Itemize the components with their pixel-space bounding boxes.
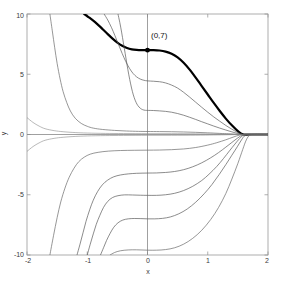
xtick-label: 2 — [265, 257, 269, 264]
point-annotation-label: (0,7) — [151, 31, 167, 40]
xtick-label: -1 — [85, 257, 91, 264]
ytick-label: 5 — [10, 71, 24, 78]
annotation-markers — [145, 48, 150, 53]
ytick-label: -5 — [8, 191, 24, 198]
xtick-label: 1 — [206, 257, 210, 264]
figure-container: -2 -1 0 1 2 10 5 0 -5 -10 x y (0,7) — [0, 0, 285, 283]
xtick-label: 0 — [146, 257, 150, 264]
ytick-label: -10 — [4, 251, 24, 258]
xtick-label: -2 — [25, 257, 31, 264]
y-axis-label: y — [0, 132, 7, 136]
ytick-label: 10 — [10, 12, 24, 19]
x-axis-label: x — [146, 268, 150, 275]
plot-canvas — [0, 0, 285, 283]
ytick-label: 0 — [10, 131, 24, 138]
